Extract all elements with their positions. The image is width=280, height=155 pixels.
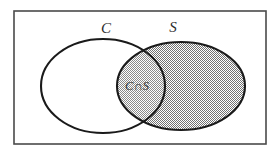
venn-diagram-figure: C S C∩S [0,0,280,155]
venn-diagram-canvas: C S C∩S [0,0,280,155]
set-s-label: S [169,19,177,35]
set-c-label: C [101,20,112,36]
intersection-label: C∩S [125,79,150,93]
